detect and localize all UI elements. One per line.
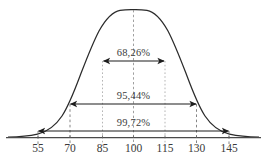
tick-label-2: 85 [97,142,109,154]
tick-label-5: 130 [188,142,206,154]
tick-label-4: 115 [157,142,174,154]
x-axis-tick-labels: 55 70 85 100 115 130 145 [32,142,238,154]
tick-label-0: 55 [32,142,44,154]
tick-label-1: 70 [64,142,76,154]
tick-label-6: 145 [220,142,238,154]
interval-label-95: 95,44% [117,90,151,101]
normal-distribution-chart: 68,26% 95,44% 99,72% 55 70 85 100 115 13… [0,0,267,165]
chart-canvas: 68,26% 95,44% 99,72% 55 70 85 100 115 13… [0,0,267,165]
interval-label-68: 68,26% [117,47,151,58]
interval-label-99: 99,72% [117,117,151,128]
tick-label-3: 100 [125,142,143,154]
